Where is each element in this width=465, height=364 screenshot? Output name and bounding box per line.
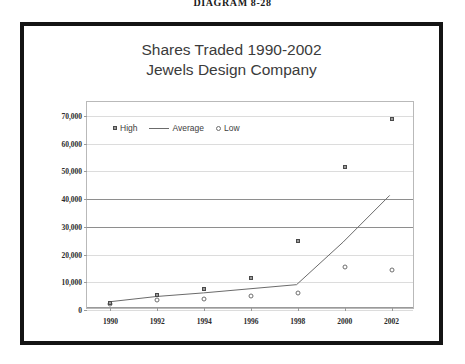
x-axis-tick-mark-1992 xyxy=(157,308,158,311)
y-axis-tick-label-20000: 20,000 xyxy=(61,250,82,259)
data-point-low-1996 xyxy=(249,294,254,299)
legend-marker-low-icon xyxy=(216,126,221,131)
y-axis-tick-label-10000: 10,000 xyxy=(61,278,82,287)
data-point-low-1994 xyxy=(202,296,207,301)
data-point-high-1992 xyxy=(155,293,159,297)
x-axis-tick-label-1990: 1990 xyxy=(103,317,118,326)
x-axis-tick-label-2002: 2002 xyxy=(384,317,399,326)
data-point-high-1998 xyxy=(296,239,300,243)
chart-title: Shares Traded 1990-2002 xyxy=(24,40,439,60)
legend-item-low: Low xyxy=(216,124,240,133)
legend-label-high: High xyxy=(120,124,137,133)
x-axis-tick-mark-1998 xyxy=(298,308,299,311)
x-axis-tick-mark-2000 xyxy=(345,308,346,311)
legend-marker-high-icon xyxy=(113,126,117,130)
x-axis-tick-mark-1994 xyxy=(204,308,205,311)
data-point-high-2000 xyxy=(343,165,347,169)
y-axis-tick-label-30000: 30,000 xyxy=(61,222,82,231)
data-point-low-1998 xyxy=(295,291,300,296)
x-axis-tick-label-1994: 1994 xyxy=(197,317,212,326)
legend-item-high: High xyxy=(113,124,137,133)
figure-caption: DIAGRAM 8-28 xyxy=(0,0,465,8)
legend-label-average: Average xyxy=(172,124,204,133)
y-axis-tick-label-60000: 60,000 xyxy=(61,139,82,148)
x-axis-tick-mark-2002 xyxy=(392,308,393,311)
y-axis-tick-label-0: 0 xyxy=(78,306,82,315)
y-axis-tick-mark-0 xyxy=(84,310,87,311)
chart-subtitle: Jewels Design Company xyxy=(24,60,439,80)
chart-legend: High Average Low xyxy=(113,124,240,133)
legend-marker-average-icon xyxy=(149,128,169,129)
legend-label-low: Low xyxy=(224,124,240,133)
legend-item-average: Average xyxy=(149,124,204,133)
x-axis-tick-mark-1990 xyxy=(110,308,111,311)
gridline-0 xyxy=(87,310,413,311)
x-axis-tick-label-1992: 1992 xyxy=(150,317,165,326)
y-axis-tick-label-40000: 40,000 xyxy=(61,195,82,204)
data-point-high-2002 xyxy=(390,117,394,121)
data-point-low-2002 xyxy=(389,267,394,272)
y-axis-tick-label-50000: 50,000 xyxy=(61,167,82,176)
plot-area: 010,00020,00030,00040,00050,00060,00070,… xyxy=(86,101,414,309)
data-point-high-1990 xyxy=(108,301,112,305)
x-axis-tick-label-1998: 1998 xyxy=(290,317,305,326)
data-point-high-1994 xyxy=(202,287,206,291)
x-axis-tick-label-2000: 2000 xyxy=(337,317,352,326)
chart-title-block: Shares Traded 1990-2002 Jewels Design Co… xyxy=(24,40,439,80)
figure-frame: Shares Traded 1990-2002 Jewels Design Co… xyxy=(20,22,443,345)
x-axis-tick-label-1996: 1996 xyxy=(244,317,259,326)
data-point-low-2000 xyxy=(342,265,347,270)
data-point-high-1996 xyxy=(249,276,253,280)
x-axis-tick-mark-1996 xyxy=(251,308,252,311)
y-axis-tick-label-70000: 70,000 xyxy=(61,111,82,120)
data-point-low-1992 xyxy=(155,298,160,303)
